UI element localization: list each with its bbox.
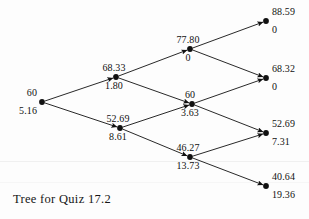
node-lower-value: 3.63 <box>181 107 199 118</box>
tree-node-dot <box>263 18 269 24</box>
tree-edge <box>193 134 263 156</box>
tree-edge <box>45 78 113 101</box>
node-lower-value: 8.61 <box>109 131 127 142</box>
node-lower-value: 13.73 <box>177 160 200 171</box>
node-upper-value: 88.59 <box>272 6 295 17</box>
node-lower-value: 7.31 <box>272 136 290 147</box>
tree-edge-layer <box>45 22 263 185</box>
node-upper-value: 46.27 <box>177 142 200 153</box>
tree-node-layer <box>39 18 269 189</box>
node-upper-value: 68.32 <box>272 63 295 74</box>
tree-edge <box>193 158 263 185</box>
tree-edge <box>119 50 187 76</box>
figure-caption: Tree for Quiz 17.2 <box>13 192 111 207</box>
tree-edge <box>193 22 263 48</box>
node-upper-value: 60 <box>185 89 195 100</box>
tree-node-dot <box>263 75 269 81</box>
node-lower-value: 0 <box>185 52 190 63</box>
tree-edge <box>119 78 189 103</box>
tree-edge <box>195 79 263 103</box>
node-upper-value: 77.80 <box>177 34 200 45</box>
tree-node-dot <box>263 183 269 189</box>
node-upper-value: 60 <box>27 87 37 98</box>
tree-edge <box>123 105 189 127</box>
node-upper-value: 52.69 <box>272 118 295 129</box>
tree-edge <box>193 50 263 77</box>
binomial-tree-figure: 605.1668.331.8052.698.6177.800603.6346.2… <box>0 0 309 219</box>
node-lower-value: 5.16 <box>19 105 37 116</box>
node-lower-value: 19.36 <box>272 189 295 200</box>
node-upper-value: 40.64 <box>272 171 295 182</box>
node-lower-value: 0 <box>272 24 277 35</box>
tree-edge <box>195 105 263 132</box>
tree-node-dot <box>39 99 45 105</box>
node-upper-value: 68.33 <box>103 62 126 73</box>
node-lower-value: 1.80 <box>105 80 123 91</box>
tree-canvas <box>0 0 309 219</box>
node-lower-value: 0 <box>272 81 277 92</box>
tree-node-dot <box>263 130 269 136</box>
node-upper-value: 52.69 <box>107 113 130 124</box>
